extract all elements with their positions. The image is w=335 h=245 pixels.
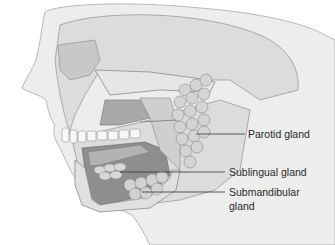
submandibular-gland-label-line2: gland	[229, 200, 255, 213]
submandibular-gland-label: Submandibular	[229, 186, 300, 199]
sublingual-gland-label: Sublingual gland	[229, 166, 307, 179]
parotid-gland-label: Parotid gland	[248, 128, 310, 141]
salivary-glands-illustration	[0, 0, 335, 245]
